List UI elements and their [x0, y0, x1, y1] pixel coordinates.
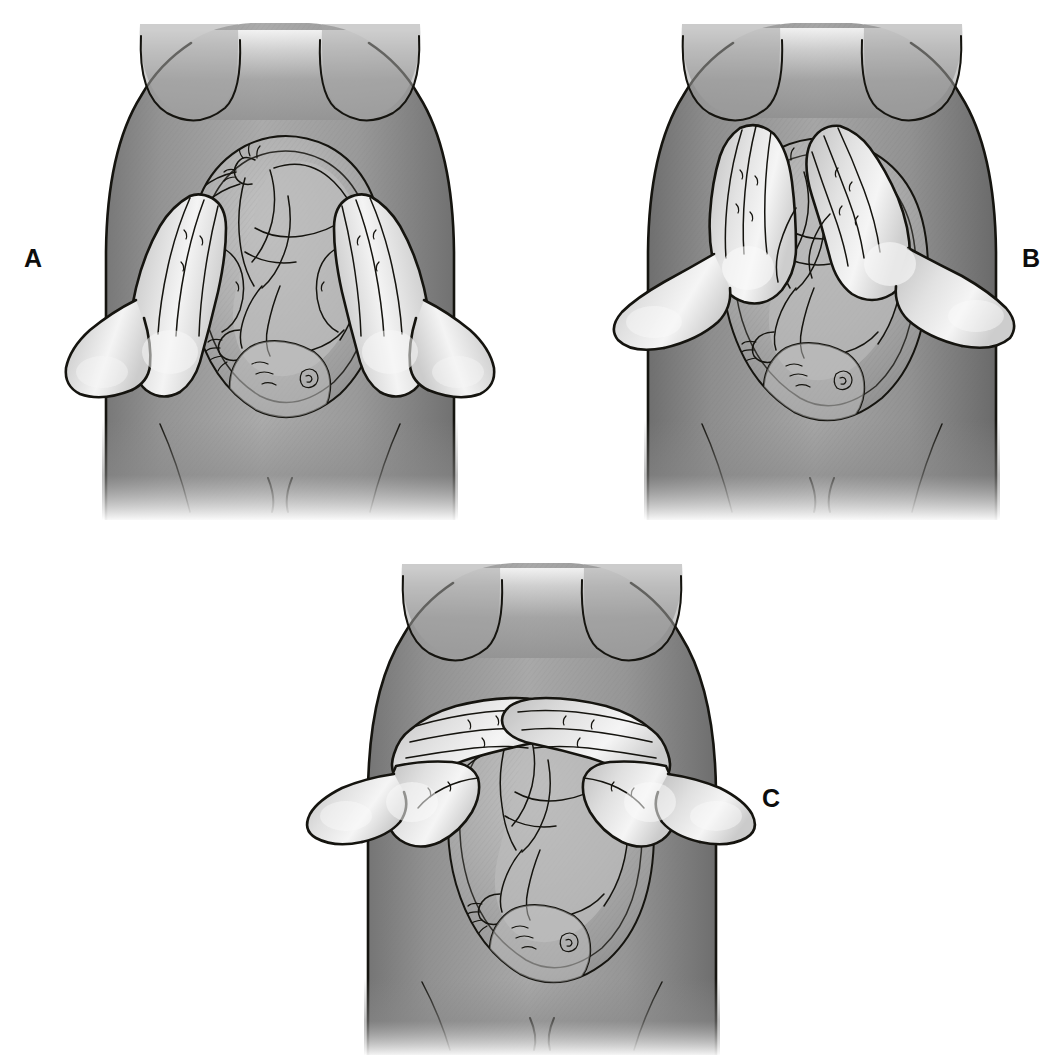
panel-a-illustration [40, 0, 510, 520]
panel-label-c: C [762, 786, 780, 811]
panel-b-illustration [590, 0, 1040, 520]
panel-c-illustration [300, 530, 760, 1055]
panel-label-b: B [1022, 246, 1040, 271]
hips-and-thighs [102, 420, 458, 520]
panel-c-pelvic-grip [300, 530, 760, 1055]
panel-label-a: A [24, 246, 42, 271]
panel-b-first-maneuver [590, 0, 1040, 520]
panel-a-second-maneuver [40, 0, 510, 520]
hips-and-thighs [644, 420, 1000, 520]
hips-and-thighs [364, 978, 720, 1055]
leopold-maneuvers-figure: A [0, 0, 1062, 1055]
